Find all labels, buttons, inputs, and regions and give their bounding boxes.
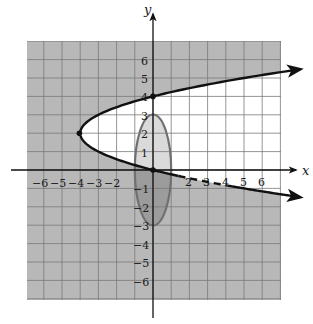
y-tick: −2 [133, 202, 149, 215]
y-tick: −1 [133, 183, 149, 196]
graph-canvas: y x −6 −5 −4 −3 −2 2 3 4 5 6 6 5 4 3 2 1… [0, 0, 313, 324]
x-tick: −5 [50, 177, 66, 190]
x-tick: −6 [32, 177, 48, 190]
point-0-4 [150, 94, 156, 100]
x-tick: 3 [203, 176, 210, 189]
y-tick: −3 [133, 220, 149, 233]
y-tick: 6 [141, 55, 148, 68]
y-tick: −4 [133, 239, 149, 252]
x-tick: −3 [86, 177, 102, 190]
y-tick: 2 [141, 128, 148, 141]
y-tick: 5 [141, 73, 148, 86]
x-tick: 5 [240, 176, 247, 189]
point-vertex [77, 130, 83, 136]
y-tick: 3 [141, 110, 148, 123]
y-tick: −6 [133, 276, 149, 289]
x-tick: 6 [258, 176, 265, 189]
y-tick: 4 [141, 91, 148, 104]
x-axis-label: x [302, 163, 310, 178]
x-tick: 4 [222, 176, 229, 189]
point-origin [150, 167, 156, 173]
x-tick: −4 [68, 177, 84, 190]
y-tick: 1 [141, 147, 148, 160]
y-tick: −5 [133, 257, 149, 270]
y-axis-label: y [143, 2, 152, 17]
x-tick: −2 [104, 177, 120, 190]
x-tick: 2 [185, 176, 192, 189]
